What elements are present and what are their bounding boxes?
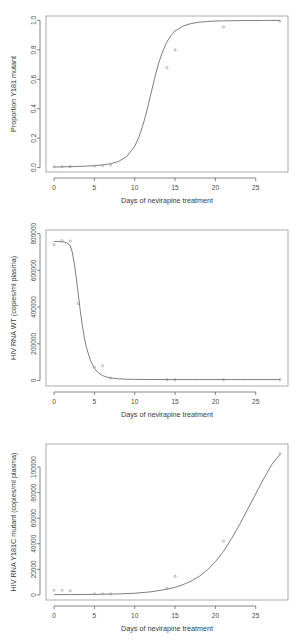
data-point bbox=[222, 26, 224, 28]
fitted-curve bbox=[54, 242, 280, 380]
x-tick-label: 20 bbox=[212, 184, 220, 191]
data-point bbox=[166, 66, 168, 68]
x-tick-label: 5 bbox=[93, 398, 97, 405]
x-tick-label: 5 bbox=[93, 612, 97, 619]
x-tick-label: 25 bbox=[252, 612, 260, 619]
data-point bbox=[53, 589, 55, 591]
y-tick-label: 0.8 bbox=[30, 45, 37, 54]
x-tick-label: 10 bbox=[131, 398, 139, 405]
x-tick-label: 10 bbox=[131, 184, 139, 191]
x-axis-title: Days of nevirapine treatment bbox=[121, 196, 213, 205]
y-tick-label: 0 bbox=[30, 378, 37, 382]
y-tick-label: 40000 bbox=[30, 534, 37, 552]
x-tick-label: 20 bbox=[212, 398, 220, 405]
x-axis-title: Days of nevirapine treatment bbox=[121, 410, 213, 419]
y-tick-label: 600000 bbox=[30, 259, 37, 281]
y-tick-label: 800000 bbox=[30, 222, 37, 244]
x-tick-label: 0 bbox=[52, 184, 56, 191]
data-point bbox=[109, 164, 111, 166]
x-tick-label: 15 bbox=[171, 184, 179, 191]
y-tick-label: 0.4 bbox=[30, 104, 37, 113]
y-tick-label: 20000 bbox=[30, 560, 37, 578]
data-point bbox=[101, 365, 103, 367]
y-axis-title: Proportion Y181 mutant bbox=[9, 56, 18, 132]
chart-panel-wt-rna: 02000004000006000008000000510152025Days … bbox=[0, 214, 303, 428]
y-axis-title: HIV RNA WT (copies/ml plasma) bbox=[9, 256, 18, 360]
x-tick-label: 25 bbox=[252, 184, 260, 191]
plot-frame bbox=[46, 230, 288, 386]
y-tick-label: 80000 bbox=[30, 483, 37, 501]
y-axis-title: HIV RNA Y181C mutant (copies/ml plasma) bbox=[9, 453, 18, 592]
data-point bbox=[53, 244, 55, 246]
y-tick-label: 200000 bbox=[30, 333, 37, 355]
y-tick-label: 0.2 bbox=[30, 133, 37, 142]
data-point bbox=[222, 540, 224, 542]
plot-frame bbox=[46, 444, 288, 600]
x-axis-title: Days of nevirapine treatment bbox=[121, 624, 213, 633]
x-tick-label: 25 bbox=[252, 398, 260, 405]
x-tick-label: 5 bbox=[93, 184, 97, 191]
figure-three-panel-hiv-dynamics: 0.00.20.40.60.81.00510152025Days of nevi… bbox=[0, 0, 303, 642]
data-point bbox=[174, 49, 176, 51]
x-tick-label: 0 bbox=[52, 612, 56, 619]
y-tick-label: 60000 bbox=[30, 509, 37, 527]
y-tick-label: 0.0 bbox=[30, 163, 37, 172]
plot-frame bbox=[46, 16, 288, 172]
data-point bbox=[61, 589, 63, 591]
y-tick-label: 100000 bbox=[30, 456, 37, 478]
y-tick-label: 0.6 bbox=[30, 74, 37, 83]
data-point bbox=[69, 590, 71, 592]
chart-panel-mutant-rna: 0200004000060000800001000000510152025Day… bbox=[0, 428, 303, 642]
y-tick-label: 0 bbox=[30, 593, 37, 597]
data-point bbox=[174, 575, 176, 577]
y-tick-label: 1.0 bbox=[30, 16, 37, 25]
x-tick-label: 20 bbox=[212, 612, 220, 619]
fitted-curve bbox=[54, 20, 280, 167]
x-tick-label: 0 bbox=[52, 398, 56, 405]
x-tick-label: 15 bbox=[171, 612, 179, 619]
fitted-curve bbox=[54, 454, 280, 594]
y-tick-label: 400000 bbox=[30, 296, 37, 318]
chart-panel-proportion-mutant: 0.00.20.40.60.81.00510152025Days of nevi… bbox=[0, 0, 303, 214]
x-tick-label: 15 bbox=[171, 398, 179, 405]
x-tick-label: 10 bbox=[131, 612, 139, 619]
data-point bbox=[69, 240, 71, 242]
